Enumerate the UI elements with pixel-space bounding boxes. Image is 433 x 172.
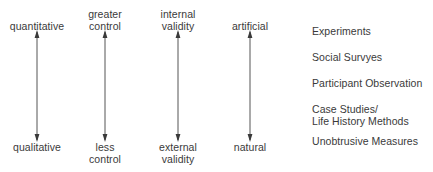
axis-bottom-label-natural: natural: [190, 142, 310, 154]
list-item: Unobtrusive Measures: [312, 136, 433, 148]
list-item: Experiments: [312, 26, 433, 38]
list-item: Participant Observation: [312, 78, 433, 90]
research-methods-list: Experiments Social Survyes Participant O…: [312, 0, 433, 172]
list-item: Social Survyes: [312, 52, 433, 64]
list-item: Case Studies/ Life History Methods: [312, 104, 433, 127]
continuum-diagram: quantitative qualitative greater control…: [0, 0, 433, 172]
continuum-axis-artificial-natural: artificial natural: [190, 0, 310, 172]
